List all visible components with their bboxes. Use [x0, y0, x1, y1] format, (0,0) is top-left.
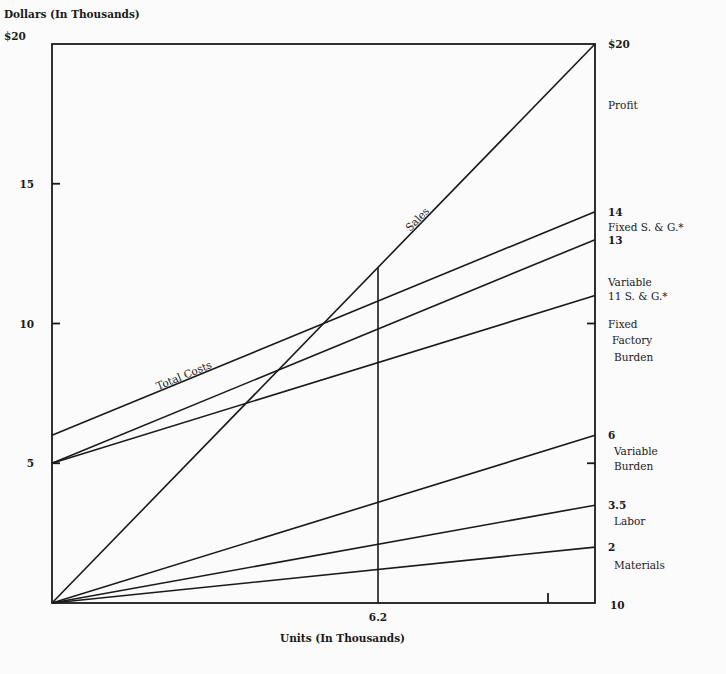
- left-tick-label: 5: [27, 457, 34, 469]
- right-axis-label: Variable: [607, 276, 652, 288]
- right-axis-label: Variable: [613, 445, 658, 457]
- right-axis-label: Materials: [614, 559, 665, 571]
- right-axis-label: Labor: [614, 515, 646, 527]
- x-marker-label: 6.2: [369, 611, 387, 623]
- series-line-total-costs: [52, 212, 595, 436]
- left-tick-label: 15: [19, 178, 34, 190]
- series-line-variable-s-g-: [52, 240, 595, 464]
- right-axis-label: Fixed S. & G.*: [608, 221, 684, 233]
- right-axis-label: 6: [608, 429, 615, 441]
- right-axis-label: $20: [608, 38, 630, 50]
- right-axis-label: 3.5: [608, 499, 626, 511]
- left-tick-label: 10: [19, 318, 34, 330]
- right-axis-label: 11 S. & G.*: [608, 290, 668, 302]
- series-line-materials: [52, 547, 595, 603]
- right-axis-label: Fixed: [608, 318, 638, 330]
- right-axis-label: Factory: [612, 334, 652, 346]
- right-axis-label: 13: [608, 234, 623, 246]
- sales-line-label: Sales: [403, 205, 431, 234]
- right-axis-label: 14: [608, 206, 623, 218]
- x-axis-title: Units (In Thousands): [280, 632, 405, 644]
- right-axis-label: Profit: [608, 99, 638, 111]
- total-costs-line-label: Total Costs: [154, 358, 213, 392]
- series-lines: [52, 44, 595, 603]
- series-line-fixed-factory-burden-line: [52, 296, 595, 464]
- break-even-chart: $20151056.2$20Profit14Fixed S. & G.*13Va…: [0, 0, 726, 674]
- right-axis-label: Burden: [614, 351, 653, 363]
- right-axis-label: 2: [608, 541, 615, 553]
- y-axis-title: Dollars (In Thousands): [4, 8, 140, 20]
- left-tick-label: $20: [4, 30, 26, 42]
- right-axis-label: Burden: [614, 460, 653, 472]
- right-axis-label: 10: [610, 599, 625, 611]
